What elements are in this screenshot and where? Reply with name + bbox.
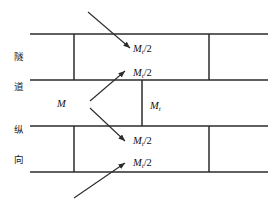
arrows-group [74, 12, 130, 198]
diagram-canvas [0, 0, 275, 205]
moment-split-arrow-up [90, 71, 125, 101]
row-label-tunnel-1: 隧 [14, 52, 24, 62]
external-load-arrow-bottom [74, 163, 125, 198]
row-label-tunnel-2: 道 [14, 82, 24, 92]
label-base: M [133, 135, 142, 146]
row-label-longitudinal-1: 纵 [14, 125, 24, 135]
label-suffix: /2 [144, 67, 152, 78]
external-load-arrow-top [88, 12, 130, 48]
label-suffix: /2 [144, 157, 152, 168]
label-moment-half-top-inner: Mt/2 [133, 68, 152, 80]
label-moment-half-top-outer: Mt/2 [133, 44, 152, 56]
label-base: M [57, 98, 66, 109]
row-label-longitudinal-2: 向 [14, 155, 24, 165]
label-moment-half-bottom-inner: Mt/2 [133, 136, 152, 148]
label-moment-half-bottom-outer: Mt/2 [133, 158, 152, 170]
label-suffix: /2 [144, 43, 152, 54]
label-base: M [133, 67, 142, 78]
label-suffix: /2 [144, 135, 152, 146]
tunnel-moment-diagram: 隧 道 纵 向 Mt/2 Mt/2 M Mt Mt/2 Mt/2 [0, 0, 275, 205]
label-subscript: t [159, 105, 161, 113]
label-base: M [133, 43, 142, 54]
label-base: M [150, 100, 159, 111]
moment-split-arrow-down [90, 108, 125, 141]
label-base: M [133, 157, 142, 168]
label-moment-source: M [57, 99, 66, 111]
label-moment-center: Mt [150, 101, 161, 113]
